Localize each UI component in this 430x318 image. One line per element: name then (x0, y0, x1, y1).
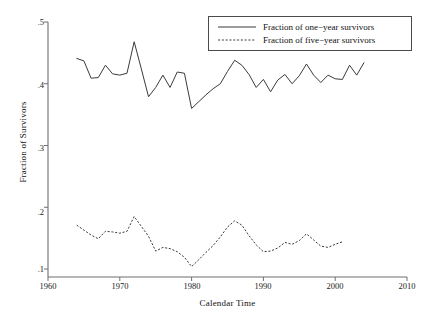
y-tick-label-0.4: .4 (22, 80, 44, 90)
x-tick-label-1990: 1990 (243, 281, 283, 291)
x-tick-label-1970: 1970 (100, 281, 140, 291)
x-tick-label-2010: 2010 (387, 281, 427, 291)
y-tick-label-0.2: .2 (22, 207, 44, 217)
series-line-one-year-survivors (77, 42, 364, 109)
series-line-five-year-survivors (77, 217, 343, 267)
data-series-group (77, 42, 364, 267)
x-tick-label-2000: 2000 (315, 281, 355, 291)
line-chart-canvas (0, 0, 430, 318)
y-tick-marks (44, 22, 48, 269)
legend-label-five-year: Fraction of five−year survivors (263, 35, 375, 45)
y-axis-title: Fraction of Survivors (18, 72, 28, 212)
x-tick-label-1960: 1960 (28, 281, 68, 291)
y-tick-label-0.3: .3 (22, 143, 44, 153)
x-axis-title: Calendar Time (48, 298, 407, 308)
legend-label-one-year: Fraction of one−year survivors (263, 22, 374, 32)
x-tick-label-1980: 1980 (172, 281, 212, 291)
chart-figure: Fraction of Survivors Calendar Time .5 .… (0, 0, 430, 318)
y-tick-label-0.5: .5 (22, 17, 44, 27)
y-tick-label-0.1: .1 (22, 264, 44, 274)
axis-lines (48, 22, 407, 277)
